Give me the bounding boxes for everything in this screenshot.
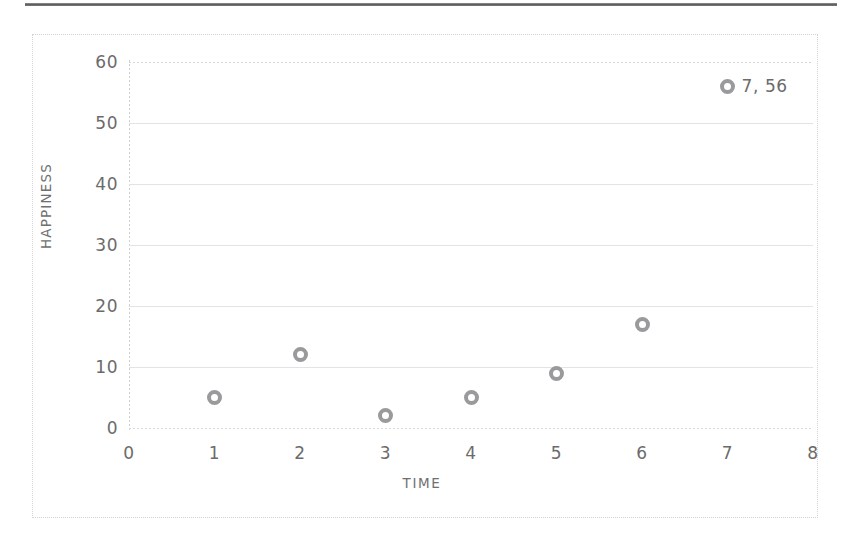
x-tick-label-8: 8 bbox=[793, 443, 833, 463]
data-point-marker[interactable] bbox=[720, 79, 735, 94]
y-tick-label-30: 30 bbox=[95, 235, 118, 255]
gridline-y-30 bbox=[129, 245, 813, 246]
data-point-marker[interactable] bbox=[635, 317, 650, 332]
y-axis-title: HAPPINESS bbox=[38, 146, 54, 266]
data-point-marker[interactable] bbox=[378, 408, 393, 423]
gridline-y-50 bbox=[129, 123, 813, 124]
x-tick-label-4: 4 bbox=[451, 443, 491, 463]
data-point-marker[interactable] bbox=[464, 390, 479, 405]
x-axis-title: TIME bbox=[0, 475, 844, 491]
gridline-y-60 bbox=[129, 62, 813, 63]
x-tick-label-0: 0 bbox=[109, 443, 149, 463]
top-rule-divider bbox=[25, 3, 837, 6]
data-point-marker[interactable] bbox=[293, 347, 308, 362]
x-tick-label-3: 3 bbox=[366, 443, 406, 463]
y-axis-tick-labels: 6050403020100 bbox=[60, 0, 118, 554]
data-point-marker[interactable] bbox=[549, 366, 564, 381]
y-tick-label-50: 50 bbox=[95, 113, 118, 133]
plot-area: 7, 56 bbox=[129, 62, 813, 428]
gridline-y-20 bbox=[129, 306, 813, 307]
y-tick-label-40: 40 bbox=[95, 174, 118, 194]
x-tick-label-6: 6 bbox=[622, 443, 662, 463]
y-tick-label-10: 10 bbox=[95, 357, 118, 377]
gridline-y-10 bbox=[129, 367, 813, 368]
x-tick-label-7: 7 bbox=[708, 443, 748, 463]
data-point-marker[interactable] bbox=[207, 390, 222, 405]
gridline-y-0 bbox=[129, 428, 813, 429]
y-tick-label-60: 60 bbox=[95, 52, 118, 72]
gridline-y-40 bbox=[129, 184, 813, 185]
y-tick-label-0: 0 bbox=[107, 418, 118, 438]
x-tick-label-1: 1 bbox=[195, 443, 235, 463]
x-tick-label-2: 2 bbox=[280, 443, 320, 463]
y-tick-label-20: 20 bbox=[95, 296, 118, 316]
data-point-label: 7, 56 bbox=[742, 76, 788, 96]
x-tick-label-5: 5 bbox=[537, 443, 577, 463]
